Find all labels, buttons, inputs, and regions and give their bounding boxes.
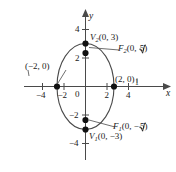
radical-glyph-lower [139,122,146,132]
point-label-focus-upper-prefix: (0, [127,43,139,53]
point-label-vertex-lower-coords: (0, −3) [98,131,123,141]
leader-line-focus-upper [89,48,119,51]
point-label-focus-upper: F2(0, 5) [118,44,147,53]
point-label-focus-lower-prefix: (0, − [122,121,139,131]
y-tick-label-4: 4 [75,25,80,34]
x-tick-label--2: −2 [58,91,68,100]
leader-line-covertex-left [58,70,66,83]
x-axis-label: x [166,89,170,99]
point-label-vertex-lower: V1(0, −3) [89,132,122,141]
y-axis-arrowhead [82,9,89,17]
point-label-focus-lower: F1(0, −5) [113,122,147,131]
radical-glyph-upper [139,44,146,54]
origin-label: 0 [75,90,80,99]
point-label-vertex-lower-sub: 1 [95,135,98,142]
ellipse-graph-figure: y x 0 −4 −2 2 4 4 2 −2 −4 1 V2(0, 3) F2(… [0,0,176,172]
point-covertex-right [111,83,117,89]
point-label-vertex-lower-var: V [89,131,95,141]
point-vertex-upper [82,40,88,46]
point-covertex-left [54,83,60,89]
y-axis-label: y [89,12,93,22]
point-label-focus-upper-sub: 2 [124,47,127,54]
point-label-covertex-left: (−2, 0) [25,62,50,71]
y-tick-label--4: −4 [69,139,79,148]
point-label-covertex-right: (2, 0) [115,75,135,84]
point-label-focus-upper-var: F [118,43,124,53]
x-tick-label--4: −4 [36,91,46,100]
point-label-vertex-upper-coords: (0, 3) [99,32,119,42]
sqrt-icon-upper: 5 [139,44,145,53]
point-label-vertex-upper-var: V [90,32,96,42]
graph-canvas [0,0,176,172]
point-focus-lower [82,117,88,123]
y-tick-label-2: 2 [75,54,80,63]
point-focus-upper [82,50,88,56]
point-label-vertex-upper: V2(0, 3) [90,33,118,42]
point-label-focus-lower-var: F [113,121,119,131]
stray-mark-label: 1 [135,79,139,87]
point-vertex-lower [82,126,88,132]
sqrt-icon-lower: 5 [139,122,145,131]
x-tick-label-4: 4 [126,91,131,100]
point-label-vertex-upper-sub: 2 [96,36,99,43]
y-tick-label--2: −2 [69,111,79,120]
x-tick-label-2: 2 [105,91,110,100]
